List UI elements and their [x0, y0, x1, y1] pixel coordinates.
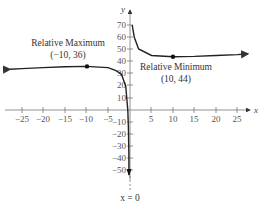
svg-text:70: 70 [117, 20, 127, 30]
relative-maximum-point [85, 64, 89, 68]
svg-text:10: 10 [169, 114, 179, 124]
curve-right-branch [132, 25, 248, 57]
svg-text:60: 60 [117, 32, 127, 42]
asymptote-label: x = 0 [120, 193, 140, 203]
relative-minimum-label: Relative Minimum [140, 62, 213, 72]
svg-text:−40: −40 [112, 153, 127, 163]
svg-text:40: 40 [117, 56, 127, 66]
svg-text:−20: −20 [36, 114, 51, 124]
svg-text:−50: −50 [112, 165, 127, 175]
svg-text:15: 15 [190, 114, 200, 124]
svg-text:−10: −10 [112, 117, 127, 127]
y-tick-labels: 70 60 50 40 30 20 10 −10 −20 −30 −40 −50 [112, 20, 127, 175]
svg-text:−15: −15 [58, 114, 73, 124]
svg-text:25: 25 [233, 114, 243, 124]
y-axis-title: y [120, 4, 125, 14]
x-axis-title: x [253, 105, 258, 115]
svg-text:−30: −30 [112, 141, 127, 151]
relative-minimum-coords: (10, 44) [161, 74, 191, 85]
relative-maximum-coords: (−10, 36) [50, 50, 85, 61]
curve-down-arrow [127, 169, 132, 176]
relative-maximum-label: Relative Maximum [31, 38, 105, 48]
svg-text:50: 50 [117, 44, 127, 54]
svg-text:20: 20 [212, 114, 222, 124]
svg-text:−20: −20 [112, 129, 127, 139]
relative-minimum-point [171, 55, 175, 59]
svg-text:−25: −25 [15, 114, 30, 124]
chart: x y −25 −20 −15 −10 −5 5 10 15 20 25 [0, 0, 268, 204]
svg-text:5: 5 [149, 114, 154, 124]
svg-text:−10: −10 [79, 114, 94, 124]
svg-text:10: 10 [117, 93, 127, 103]
